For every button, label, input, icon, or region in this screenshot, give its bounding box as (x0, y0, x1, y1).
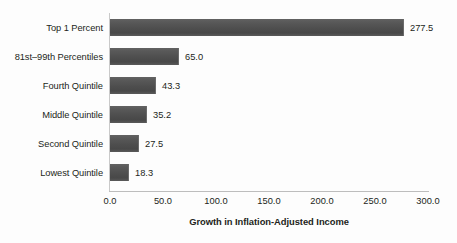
bar-row: Lowest Quintile 18.3 (0, 158, 457, 187)
bar (110, 19, 404, 36)
bar-track: 65.0 (110, 42, 203, 71)
bar-value-label: 35.2 (153, 110, 171, 120)
bar-row: Fourth Quintile 43.3 (0, 71, 457, 100)
bar (110, 164, 129, 181)
category-label: Top 1 Percent (0, 13, 103, 42)
category-label: 81st–99th Percentiles (0, 42, 103, 71)
x-axis-tick-label: 300.0 (398, 196, 457, 206)
bar (110, 106, 147, 123)
x-axis-tick-label: 100.0 (186, 196, 246, 206)
x-axis-line (109, 191, 429, 192)
category-label: Middle Quintile (0, 100, 103, 129)
bar-value-label: 277.5 (410, 23, 433, 33)
bar-row: Middle Quintile 35.2 (0, 100, 457, 129)
x-axis-tick-label: 0.0 (80, 196, 140, 206)
bar-track: 27.5 (110, 129, 163, 158)
bar-track: 18.3 (110, 158, 153, 187)
x-axis-title: Growth in Inflation-Adjusted Income (109, 216, 429, 227)
bar-track: 277.5 (110, 13, 433, 42)
x-axis-tick-label: 150.0 (239, 196, 299, 206)
x-axis-tick-label: 200.0 (292, 196, 352, 206)
plot-area: Top 1 Percent 277.5 81st–99th Percentile… (0, 0, 457, 243)
bar-value-label: 65.0 (185, 52, 203, 62)
category-label: Lowest Quintile (0, 158, 103, 187)
bar (110, 48, 179, 65)
bar-chart: Top 1 Percent 277.5 81st–99th Percentile… (0, 0, 457, 243)
category-label: Second Quintile (0, 129, 103, 158)
x-axis-tick-label: 50.0 (133, 196, 193, 206)
bar-row: Second Quintile 27.5 (0, 129, 457, 158)
bar-value-label: 43.3 (162, 81, 180, 91)
bar-track: 43.3 (110, 71, 180, 100)
x-axis-tick-label: 250.0 (345, 196, 405, 206)
bar (110, 77, 156, 94)
bar (110, 135, 139, 152)
category-label: Fourth Quintile (0, 71, 103, 100)
bar-row: Top 1 Percent 277.5 (0, 13, 457, 42)
bar-value-label: 27.5 (145, 139, 163, 149)
bar-row: 81st–99th Percentiles 65.0 (0, 42, 457, 71)
bar-track: 35.2 (110, 100, 171, 129)
bar-value-label: 18.3 (135, 168, 153, 178)
